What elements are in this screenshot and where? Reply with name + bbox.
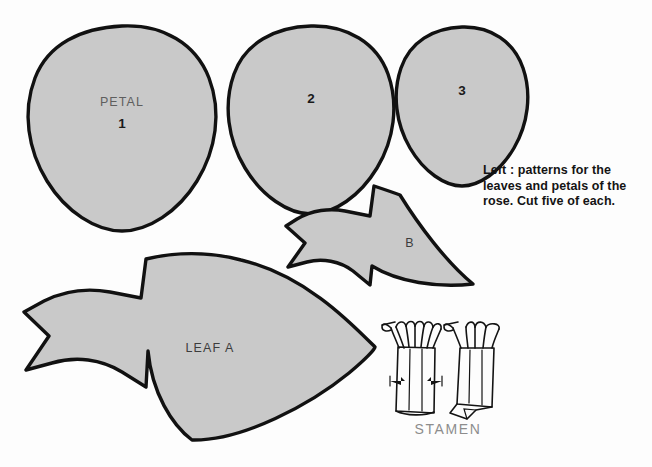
caption-line-3: rose. Cut five of each. bbox=[483, 194, 643, 210]
stamen-fold-line-1 bbox=[409, 349, 410, 410]
stamen2-tip-curl-c bbox=[486, 324, 499, 329]
stamen-tip-curl-mid-c bbox=[415, 322, 424, 327]
stamen-label: STAMEN bbox=[415, 421, 482, 437]
stamen2-fringe-1 bbox=[453, 328, 461, 348]
stamen-tip-curl-mid-b bbox=[406, 322, 415, 327]
stamen-fringe-right-1 bbox=[433, 329, 441, 348]
caption-block: Left : patterns for the leaves and petal… bbox=[483, 163, 643, 210]
stamen-tip-curl-mid-a bbox=[396, 322, 406, 327]
petal-1-number-label: 1 bbox=[118, 116, 126, 131]
leaf-a-label: LEAF A bbox=[186, 341, 235, 355]
pattern-sheet-canvas: PETAL 1 2 3 B LEAF A bbox=[0, 0, 652, 467]
leaf-b-label: B bbox=[405, 236, 414, 250]
petal-1-group: PETAL 1 bbox=[28, 26, 216, 231]
stamen2-fringe-5 bbox=[492, 329, 499, 348]
caption-line-2: leaves and petals of the bbox=[483, 179, 643, 195]
stamen2-fringe-2 bbox=[466, 327, 468, 348]
petal-2-group: 2 bbox=[228, 26, 394, 214]
stamen2-base-tab-fold bbox=[464, 409, 476, 419]
stamen-fringe-right-2 bbox=[427, 327, 433, 348]
petal-3-number-label: 3 bbox=[458, 83, 466, 98]
stamen-tip-curl-right-a bbox=[424, 322, 433, 327]
petal-2-number-label: 2 bbox=[307, 91, 315, 106]
stamen-front-view-figure bbox=[382, 322, 442, 415]
stamen2-fringe-4 bbox=[483, 327, 486, 348]
caption-line-1: Left : patterns for the bbox=[483, 163, 643, 179]
petal-1-word-label: PETAL bbox=[100, 95, 144, 109]
pattern-sheet-page: PETAL 1 2 3 B LEAF A bbox=[0, 0, 652, 467]
leaf-a-group: LEAF A bbox=[24, 254, 375, 440]
stamen2-fold-line-1 bbox=[469, 350, 470, 403]
stamen-fringe-left-3 bbox=[406, 326, 409, 347]
stamen-tip-curl-right-b bbox=[433, 324, 441, 329]
stamen2-body-outline bbox=[457, 348, 494, 407]
stamen2-tip-curl-a bbox=[466, 322, 475, 327]
petal-2-shape bbox=[228, 26, 394, 214]
stamen-fringe-right-3 bbox=[421, 326, 424, 347]
stamen2-tip-curl-b bbox=[475, 322, 486, 327]
stamen-rolled-view-figure bbox=[444, 322, 499, 419]
